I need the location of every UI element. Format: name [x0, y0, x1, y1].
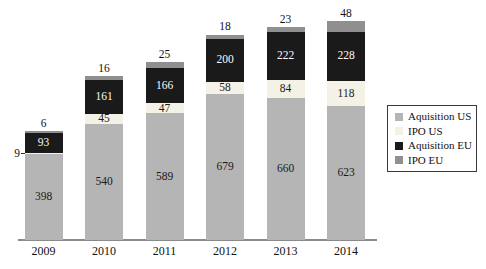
value-label-ipo-us-2010: 45 — [98, 113, 110, 125]
value-label-aquisition-eu-2012: 200 — [216, 54, 233, 66]
legend-item-ipo-eu: IPO EU — [395, 155, 474, 166]
value-label-above-2014: 48 — [326, 8, 366, 20]
x-tick-2013: 2013 — [261, 244, 311, 259]
segment-aquisition-us-2012: 679 — [206, 94, 244, 240]
value-label-aquisition-us-2011: 589 — [156, 171, 173, 183]
segment-ipo-eu-2010 — [85, 76, 123, 79]
x-tick-2014: 2014 — [321, 244, 371, 259]
value-label-aquisition-us-2012: 679 — [216, 161, 233, 173]
segment-ipo-eu-2014 — [327, 21, 365, 31]
segment-aquisition-us-2013: 660 — [267, 98, 305, 240]
x-tick-2010: 2010 — [79, 244, 129, 259]
legend-label-ipo-eu: IPO EU — [408, 155, 443, 166]
segment-aquisition-us-2011: 589 — [146, 113, 184, 240]
segment-ipo-eu-2013 — [267, 27, 305, 32]
outside-value-text: 9 — [14, 148, 20, 160]
segment-ipo-us-2011: 47 — [146, 103, 184, 113]
legend-swatch-aquisition-us — [395, 113, 403, 121]
x-tick-2012: 2012 — [200, 244, 250, 259]
value-label-aquisition-us-2014: 623 — [337, 167, 354, 179]
value-label-aquisition-us-2013: 660 — [277, 163, 294, 175]
segment-aquisition-eu-2011: 166 — [146, 68, 184, 104]
segment-aquisition-us-2014: 623 — [327, 106, 365, 240]
legend-label-aquisition-us: Aquisition US — [408, 111, 471, 122]
value-label-above-2012: 18 — [205, 21, 245, 33]
legend-swatch-ipo-us — [395, 127, 403, 135]
x-tick-2011: 2011 — [140, 244, 190, 259]
legend-label-ipo-us: IPO US — [408, 126, 443, 137]
value-label-aquisition-eu-2013: 222 — [277, 50, 294, 62]
segment-ipo-us-2013: 84 — [267, 80, 305, 98]
legend-item-aquisition-eu: Aquisition EU — [395, 140, 474, 151]
segment-ipo-us-2014: 118 — [327, 81, 365, 106]
segment-aquisition-eu-2014: 228 — [327, 32, 365, 81]
bar-2011: 58947166 — [146, 62, 184, 240]
segment-aquisition-eu-2009: 93 — [25, 133, 63, 153]
legend-swatch-ipo-eu — [395, 156, 403, 164]
value-label-aquisition-eu-2009: 93 — [38, 137, 50, 149]
value-label-aquisition-eu-2010: 161 — [95, 91, 112, 103]
legend-swatch-aquisition-eu — [395, 142, 403, 150]
value-label-aquisition-eu-2011: 166 — [156, 80, 173, 92]
bar-2013: 66084222 — [267, 27, 305, 240]
segment-ipo-eu-2011 — [146, 62, 184, 67]
bar-2012: 67958200 — [206, 35, 244, 240]
value-label-ipo-us-2012: 58 — [219, 82, 231, 94]
segment-aquisition-eu-2010: 161 — [85, 80, 123, 115]
legend-box: Aquisition USIPO USAquisition EUIPO EU — [387, 105, 477, 172]
segment-ipo-us-2010: 45 — [85, 114, 123, 124]
segment-ipo-eu-2012 — [206, 35, 244, 39]
value-label-aquisition-us-2009: 398 — [35, 191, 52, 203]
bar-2014: 623118228 — [327, 21, 365, 240]
value-label-ipo-us-2011: 47 — [159, 103, 171, 115]
segment-aquisition-eu-2012: 200 — [206, 39, 244, 82]
segment-ipo-us-2009 — [25, 153, 63, 155]
bar-2009: 39893 — [25, 131, 63, 240]
legend-item-aquisition-us: Aquisition US — [395, 111, 474, 122]
segment-aquisition-eu-2013: 222 — [267, 32, 305, 80]
value-label-aquisition-us-2010: 540 — [95, 176, 112, 188]
legend-label-aquisition-eu: Aquisition EU — [408, 140, 472, 151]
value-label-above-2011: 25 — [145, 49, 185, 61]
segment-ipo-eu-2009 — [25, 131, 63, 132]
value-label-ipo-us-2013: 84 — [280, 83, 292, 95]
value-label-above-2009: 6 — [24, 118, 64, 130]
value-label-above-2010: 16 — [84, 63, 124, 75]
x-tick-2009: 2009 — [19, 244, 69, 259]
stacked-bar-chart: 9 Aquisition USIPO USAquisition EUIPO EU… — [0, 0, 486, 269]
segment-aquisition-us-2010: 540 — [85, 124, 123, 240]
x-axis-line — [18, 239, 377, 241]
legend-item-ipo-us: IPO US — [395, 126, 474, 137]
bar-2010: 54045161 — [85, 76, 123, 240]
value-label-above-2013: 23 — [266, 14, 306, 26]
segment-ipo-us-2012: 58 — [206, 82, 244, 94]
segment-aquisition-us-2009: 398 — [25, 154, 63, 240]
value-label-ipo-us-2014: 118 — [338, 88, 355, 100]
value-label-aquisition-eu-2014: 228 — [337, 50, 354, 62]
